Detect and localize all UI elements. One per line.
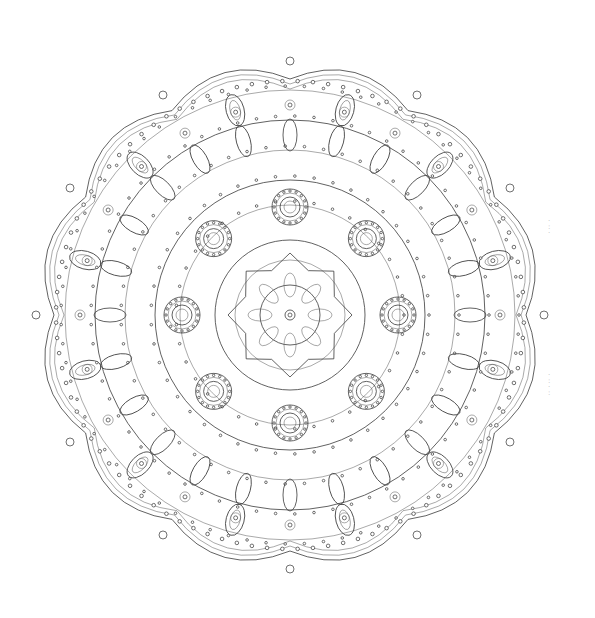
mandala-illustration: [0, 0, 595, 618]
stray-mark: ·:·: [548, 218, 560, 236]
mandala-lines: [32, 57, 548, 573]
stray-mark: ·:·:: [548, 372, 560, 396]
